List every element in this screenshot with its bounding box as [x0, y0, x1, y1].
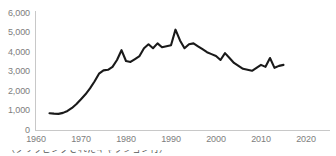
y-tick-label-6000: 6,000	[0, 9, 30, 18]
axes-group	[36, 11, 331, 131]
x-tick-label-2020: 2020	[286, 135, 326, 144]
y-tick-label-1000: 1,000	[0, 106, 30, 115]
y-tick-label-4000: 4,000	[0, 48, 30, 57]
x-tick-label-1960: 1960	[16, 135, 56, 144]
x-tick-label-1990: 1990	[151, 135, 191, 144]
line-chart-figure: 6,000 5,000 4,000 3,000 2,000 1,000 0 19…	[0, 0, 336, 156]
x-tick-label-2010: 2010	[241, 135, 281, 144]
clipped-caption-strip: （クリッピングされたキャプション行）	[0, 150, 336, 156]
chart-canvas	[0, 0, 336, 156]
x-tick-label-2000: 2000	[196, 135, 236, 144]
y-tick-label-3000: 3,000	[0, 67, 30, 76]
data-line-series-1	[50, 30, 284, 114]
y-tick-label-2000: 2,000	[0, 87, 30, 96]
caption-text: （クリッピングされたキャプション行）	[6, 150, 168, 155]
x-tick-label-1980: 1980	[106, 135, 146, 144]
series-group	[50, 30, 284, 114]
y-tick-label-5000: 5,000	[0, 28, 30, 37]
x-tick-label-1970: 1970	[61, 135, 101, 144]
